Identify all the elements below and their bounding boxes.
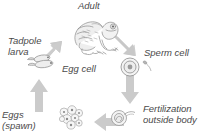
stage-label-adult: Adult	[78, 1, 100, 12]
stage-label-fertilization: Fertilizationoutside body	[143, 104, 197, 125]
stage-label-eggs-line1: Eggs	[2, 109, 24, 120]
stage-label-fertilization-line1: Fertilization	[143, 103, 192, 114]
stage-label-tadpole-line2: larva	[8, 46, 29, 57]
stage-label-fertilization-line2: outside body	[143, 114, 197, 125]
stage-label-sperm-cell: Sperm cell	[144, 48, 189, 59]
stage-label-tadpole-larva: Tadpolelarva	[8, 36, 41, 57]
stage-label-tadpole-line1: Tadpole	[8, 35, 41, 46]
center-label-egg-cell: Egg cell	[62, 64, 96, 75]
stage-label-eggs-line2: (spawn)	[2, 120, 36, 131]
stage-label-eggs-spawn: Eggs(spawn)	[2, 110, 36, 131]
